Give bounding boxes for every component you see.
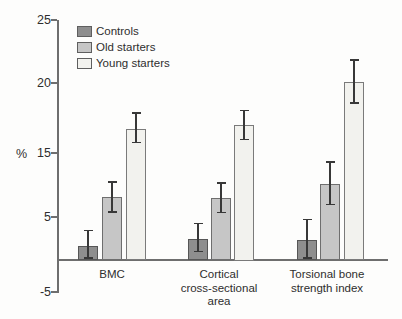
error-bar-controls	[84, 230, 93, 259]
error-bar-cap	[326, 161, 335, 163]
bar-young-starters	[234, 125, 254, 261]
error-bar-cap	[132, 142, 141, 144]
legend-label: Young starters	[96, 57, 170, 70]
error-bar-cap	[350, 59, 359, 61]
legend-swatch-icon	[77, 42, 92, 53]
error-bar-line	[220, 182, 222, 213]
y-tick-label: 15	[27, 145, 51, 161]
error-bar-cap	[240, 110, 249, 112]
error-bar-young-starters	[350, 59, 359, 104]
y-tick-mark	[51, 152, 57, 154]
y-tick-mark	[51, 291, 57, 293]
error-bar-old-starters	[108, 181, 117, 212]
error-bar-cap	[326, 204, 335, 206]
error-bar-line	[197, 223, 199, 252]
error-bar-controls	[194, 223, 203, 252]
error-bar-cap	[350, 102, 359, 104]
y-tick-mark	[51, 82, 57, 84]
legend-item: Young starters	[77, 58, 197, 70]
legend-label: Old starters	[96, 41, 155, 54]
error-bar-line	[87, 230, 89, 259]
error-bar-cap	[303, 257, 312, 259]
legend-item: Controls	[77, 26, 197, 38]
error-bar-controls	[303, 219, 312, 259]
error-bar-line	[111, 181, 113, 212]
y-tick-label: -5	[27, 284, 51, 300]
y-tick-mark	[51, 19, 57, 21]
y-tick-label: 5	[27, 209, 51, 225]
category-label: Torsional bonestrength index	[252, 268, 402, 295]
y-axis-label: %	[16, 147, 27, 161]
error-bar-line	[243, 110, 245, 141]
y-tick-label: 25	[27, 12, 51, 28]
legend-swatch-icon	[77, 58, 92, 69]
legend-label: Controls	[96, 25, 139, 38]
error-bar-line	[353, 59, 355, 104]
category-label-line: strength index	[252, 282, 402, 296]
error-bar-cap	[84, 257, 93, 259]
error-bar-old-starters	[326, 161, 335, 205]
bar-young-starters	[344, 82, 364, 261]
error-bar-cap	[303, 219, 312, 221]
legend-swatch-icon	[77, 26, 92, 37]
bar-young-starters	[126, 129, 146, 260]
error-bar-cap	[217, 182, 226, 184]
error-bar-old-starters	[217, 182, 226, 213]
y-tick-mark	[51, 216, 57, 218]
bar-chart-figure: % 2520155-5BMCCorticalcross-sectionalare…	[0, 0, 402, 319]
error-bar-cap	[84, 230, 93, 232]
error-bar-young-starters	[132, 112, 141, 143]
error-bar-cap	[108, 211, 117, 213]
error-bar-line	[135, 112, 137, 143]
error-bar-cap	[194, 223, 203, 225]
error-bar-cap	[108, 181, 117, 183]
error-bar-line	[329, 161, 331, 205]
category-label-line: area	[144, 295, 294, 309]
error-bar-line	[306, 219, 308, 259]
error-bar-cap	[217, 212, 226, 214]
y-axis-line	[57, 20, 59, 293]
error-bar-young-starters	[240, 110, 249, 141]
error-bar-cap	[132, 112, 141, 114]
y-tick-label: 20	[27, 75, 51, 91]
category-label-line: Torsional bone	[252, 268, 402, 282]
error-bar-cap	[240, 139, 249, 141]
legend-item: Old starters	[77, 42, 197, 54]
error-bar-cap	[194, 251, 203, 253]
